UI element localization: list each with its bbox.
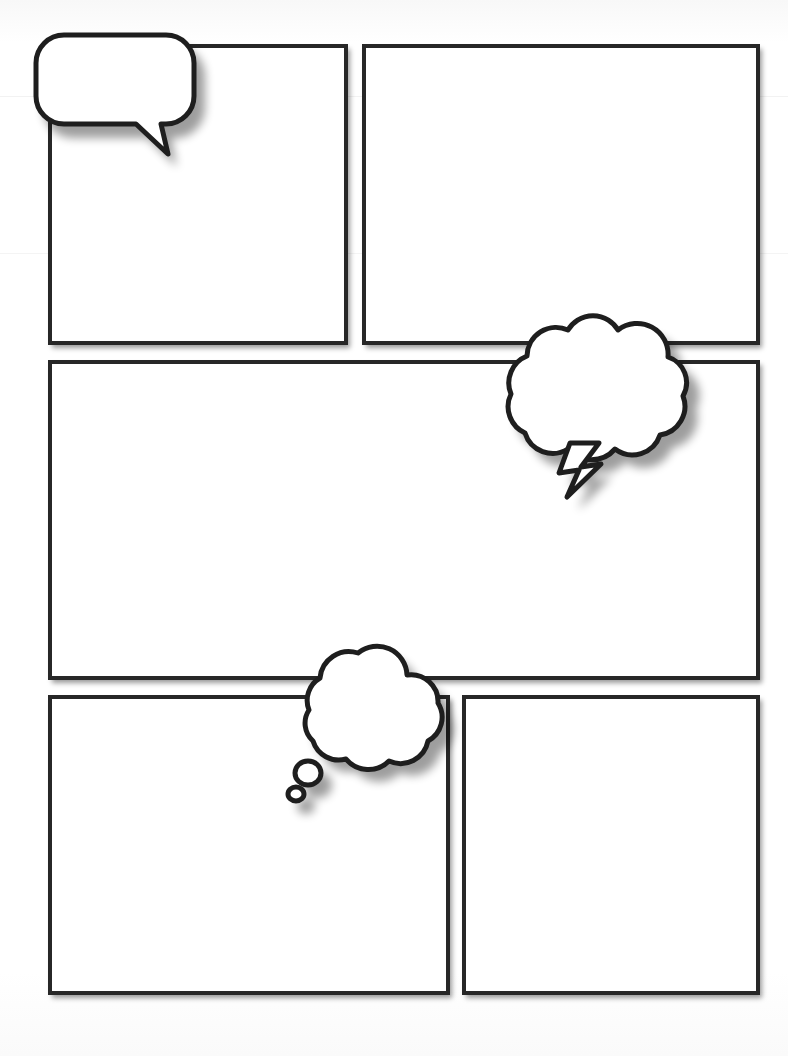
thought-balloon[interactable]: [282, 640, 467, 820]
comic-panel-bottom-right[interactable]: [462, 695, 760, 995]
speech-balloon[interactable]: [28, 26, 208, 176]
burst-balloon-cloud-outline: [508, 316, 686, 460]
thought-balloon-trail-large: [295, 761, 321, 785]
thought-balloon-outline: [305, 646, 442, 769]
comic-template-page: [0, 0, 788, 1056]
thought-balloon-trail-small: [288, 787, 304, 801]
burst-balloon[interactable]: [498, 305, 713, 515]
comic-panel-top-right[interactable]: [362, 44, 760, 345]
